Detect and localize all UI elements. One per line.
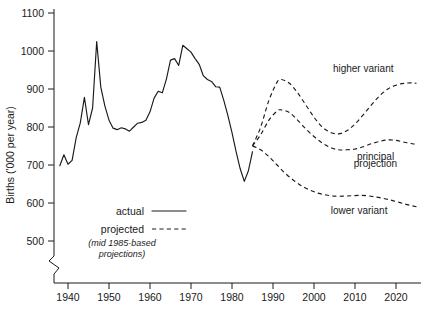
x-tick-label: 1980 (220, 291, 244, 303)
y-tick-label: 500 (26, 235, 44, 247)
series-actual (60, 42, 253, 182)
legend: actual projected (mid 1985-based project… (88, 205, 186, 259)
x-tick-label: 1960 (138, 291, 162, 303)
x-tick-label: 2000 (302, 291, 326, 303)
legend-label-projected: projected (101, 223, 144, 235)
x-tick-label: 1940 (56, 291, 80, 303)
y-tick-label: 1000 (21, 45, 45, 57)
legend-note-line1: (mid 1985-based (88, 238, 157, 248)
series-principal-projection (253, 110, 417, 150)
y-tick-label: 1100 (21, 7, 44, 19)
x-tick-label: 2020 (384, 291, 408, 303)
annotation-lower-variant: lower variant (331, 205, 388, 216)
x-tick-group: 194019501960197019801990200020102020 (56, 283, 408, 303)
annotation-higher-variant: higher variant (333, 63, 394, 74)
y-tick-label: 600 (26, 197, 44, 209)
legend-note-line2: projections) (98, 249, 146, 259)
births-projection-chart: 50060070080090010001100 Births ('000 per… (0, 0, 429, 313)
x-tick-label: 1950 (97, 291, 121, 303)
x-axis: 194019501960197019801990200020102020 (54, 283, 421, 303)
legend-label-actual: actual (116, 205, 144, 217)
x-tick-label: 1990 (261, 291, 285, 303)
y-tick-label: 800 (26, 121, 44, 133)
y-axis: 50060070080090010001100 Births ('000 per… (4, 7, 59, 283)
series-higher-variant (253, 79, 417, 146)
x-tick-label: 2010 (343, 291, 367, 303)
annotation-group: higher variantprincipalprojectionlower v… (331, 63, 397, 216)
y-axis-title: Births ('000 per year) (4, 106, 16, 204)
chart-svg: 50060070080090010001100 Births ('000 per… (0, 0, 429, 313)
y-tick-group: 50060070080090010001100 (21, 7, 54, 247)
annotation-projection: projection (354, 158, 397, 169)
y-tick-label: 900 (26, 83, 44, 95)
y-tick-label: 700 (26, 159, 44, 171)
x-tick-label: 1970 (179, 291, 203, 303)
y-axis-break-zigzag (49, 251, 59, 283)
